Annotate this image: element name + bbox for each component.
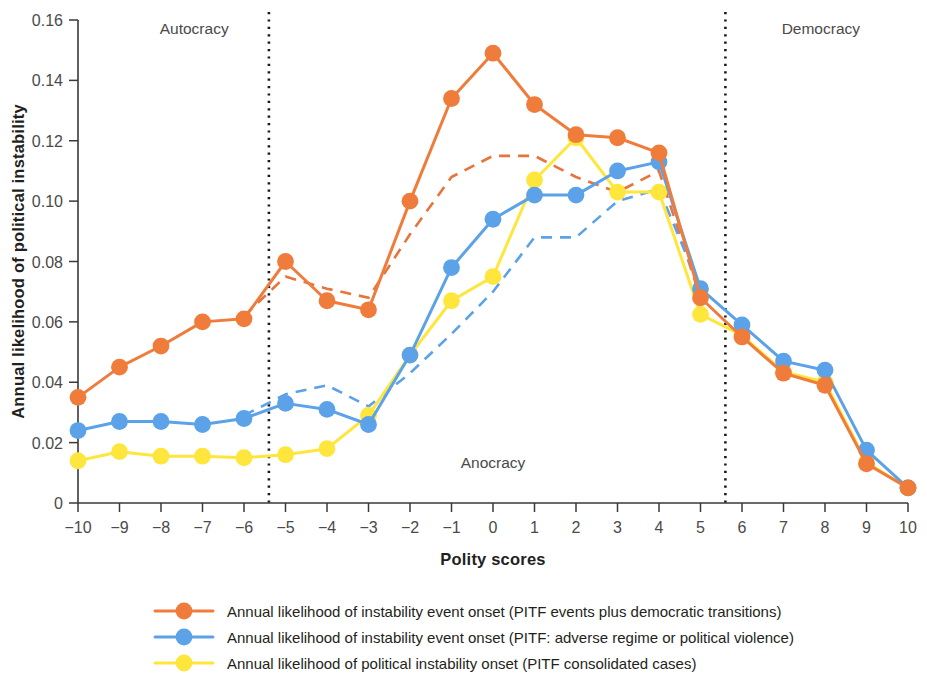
- data-point: [194, 313, 211, 330]
- y-tick-label: 0.10: [32, 193, 63, 210]
- data-point: [277, 446, 294, 463]
- data-point: [817, 377, 834, 394]
- data-point: [319, 440, 336, 457]
- data-point: [485, 268, 502, 285]
- data-point: [443, 259, 460, 276]
- data-point: [443, 90, 460, 107]
- x-tick-label: 2: [572, 519, 581, 536]
- data-point: [236, 449, 253, 466]
- legend-label-2: Annual likelihood of political instabili…: [227, 655, 696, 672]
- x-tick-label: −8: [152, 519, 170, 536]
- data-point: [153, 448, 170, 465]
- data-point: [319, 401, 336, 418]
- x-tick-label: −7: [193, 519, 211, 536]
- x-tick-label: 5: [696, 519, 705, 536]
- chart-legend: Annual likelihood of instability event o…: [155, 603, 794, 672]
- x-axis-ticks: −10−9−8−7−6−5−4−3−2−1012345678910: [64, 503, 917, 536]
- data-point: [111, 413, 128, 430]
- legend-item-1[interactable]: Annual likelihood of instability event o…: [155, 629, 794, 646]
- x-tick-label: −4: [318, 519, 336, 536]
- data-point: [277, 395, 294, 412]
- autocracy-label: Autocracy: [160, 20, 229, 37]
- data-point: [734, 329, 751, 346]
- x-tick-label: −3: [359, 519, 377, 536]
- x-tick-label: 4: [655, 519, 664, 536]
- y-tick-label: 0.06: [32, 314, 63, 331]
- x-tick-label: 9: [862, 519, 871, 536]
- data-point: [70, 452, 87, 469]
- data-point: [70, 389, 87, 406]
- x-tick-label: −9: [110, 519, 128, 536]
- x-tick-label: 6: [738, 519, 747, 536]
- data-point: [277, 253, 294, 270]
- x-tick-label: 3: [613, 519, 622, 536]
- data-point: [692, 306, 709, 323]
- data-point: [526, 96, 543, 113]
- x-tick-label: −6: [235, 519, 253, 536]
- x-tick-label: 1: [530, 519, 539, 536]
- x-tick-label: 10: [899, 519, 917, 536]
- data-point: [402, 347, 419, 364]
- data-point: [609, 184, 626, 201]
- data-point: [900, 480, 917, 497]
- data-point: [775, 365, 792, 382]
- y-tick-label: 0.12: [32, 133, 63, 150]
- trend-line-1: [244, 189, 701, 415]
- political-instability-line-chart: 00.020.040.060.080.100.120.140.16−10−9−8…: [0, 0, 927, 674]
- legend-marker-1: [176, 629, 193, 646]
- regime-dividers: [269, 12, 726, 503]
- data-point: [858, 455, 875, 472]
- x-axis-title: Polity scores: [440, 550, 545, 568]
- data-point: [443, 292, 460, 309]
- x-tick-label: −10: [64, 519, 91, 536]
- data-point: [568, 187, 585, 204]
- data-point: [236, 310, 253, 327]
- legend-item-2[interactable]: Annual likelihood of political instabili…: [155, 655, 696, 672]
- data-point: [111, 359, 128, 376]
- data-point: [526, 187, 543, 204]
- data-point: [194, 416, 211, 433]
- data-point: [70, 422, 87, 439]
- data-point: [153, 338, 170, 355]
- legend-label-0: Annual likelihood of instability event o…: [227, 603, 781, 620]
- legend-marker-0: [176, 603, 193, 620]
- data-point: [568, 126, 585, 143]
- data-point: [153, 413, 170, 430]
- data-point: [651, 184, 668, 201]
- data-point: [692, 289, 709, 306]
- data-point: [360, 301, 377, 318]
- legend-marker-2: [176, 655, 193, 672]
- x-tick-label: 7: [779, 519, 788, 536]
- x-tick-label: −1: [442, 519, 460, 536]
- anocracy-label: Anocracy: [461, 454, 526, 471]
- data-point: [485, 211, 502, 228]
- data-point: [485, 45, 502, 62]
- x-tick-label: −2: [401, 519, 419, 536]
- data-point: [817, 362, 834, 379]
- x-tick-label: 8: [821, 519, 830, 536]
- data-point: [319, 292, 336, 309]
- data-point: [402, 193, 419, 210]
- y-tick-label: 0: [54, 495, 63, 512]
- data-point: [111, 443, 128, 460]
- x-tick-label: 0: [489, 519, 498, 536]
- data-point: [609, 163, 626, 180]
- x-tick-label: −5: [276, 519, 294, 536]
- y-tick-label: 0.14: [32, 72, 63, 89]
- data-series-group: [70, 45, 917, 497]
- legend-item-0[interactable]: Annual likelihood of instability event o…: [155, 603, 781, 620]
- y-axis-ticks: 00.020.040.060.080.100.120.140.16: [32, 12, 78, 512]
- trend-line-0: [244, 156, 701, 316]
- y-tick-label: 0.08: [32, 254, 63, 271]
- democracy-label: Democracy: [782, 20, 861, 37]
- data-point: [651, 144, 668, 161]
- data-point: [360, 416, 377, 433]
- data-point: [236, 410, 253, 427]
- y-axis-title: Annual likelihood of political instabili…: [9, 104, 27, 419]
- series-2: [70, 129, 917, 496]
- series-line-2: [78, 138, 908, 488]
- data-point: [526, 172, 543, 189]
- data-point: [609, 129, 626, 146]
- y-tick-label: 0.04: [32, 374, 63, 391]
- data-point: [194, 448, 211, 465]
